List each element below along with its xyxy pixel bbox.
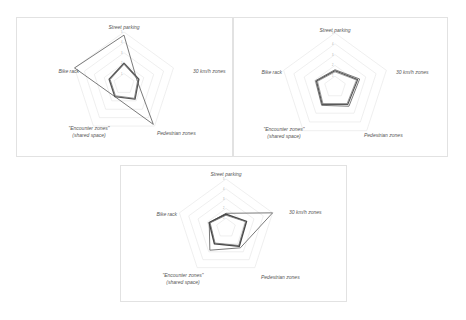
axis-label-encounter: "Encounter zones" [68,125,109,131]
tick-label: 2 [332,63,334,67]
axis-label-pedestrian: Pedestrian zones [157,130,196,136]
series-polygon [109,63,139,99]
axis-label-30kmh: 30 km/h zones [396,69,429,75]
axis-label-shared-space: (shared space) [72,132,106,138]
axis-label-30kmh: 30 km/h zones [289,209,322,215]
axis-label-street-parking: Street parking [108,24,139,30]
tick-label: 3 [121,51,123,55]
grid-ring [114,74,134,93]
axis-label-shared-space: (shared space) [267,133,301,139]
tick-label: 1 [121,72,123,76]
axis-label-street-parking: Street parking [210,171,241,177]
grid-ring [284,33,387,131]
tick-label: 4 [223,187,225,191]
axis-label-pedestrian: Pedestrian zones [261,274,300,280]
series-polygon [75,35,154,124]
tick-label: 2 [223,206,225,210]
radar-panel-3: 12345 Street parking 30 km/h zones Pedes… [120,165,347,302]
axis-label-bike-rack: Bike rack [58,68,79,74]
tick-label: 3 [332,53,334,57]
tick-label: 5 [121,30,123,34]
axis-label-shared-space: (shared space) [166,279,200,285]
radar-chart-2: 12345 Street parking 30 km/h zones Pedes… [234,18,449,158]
axis-label-bike-rack: Bike rack [261,69,282,75]
axis-label-encounter: "Encounter zones" [162,272,203,278]
tick-label: 4 [121,40,123,44]
grid-ring [217,218,236,236]
tick-label: 3 [223,197,225,201]
axis-label-30kmh: 30 km/h zones [193,68,226,74]
tick-label: 4 [332,42,334,46]
grid-ring [179,179,272,268]
axis-label-street-parking: Street parking [319,27,350,33]
tick-label: 5 [223,177,225,181]
tick-label: 1 [332,74,334,78]
axis-label-encounter: "Encounter zones" [263,126,304,132]
axis-label-bike-rack: Bike rack [156,211,177,217]
radar-panel-1: 12345 Street parking 30 km/h zones Pedes… [16,17,233,157]
grid-ring [325,76,346,96]
radar-panel-2: 12345 Street parking 30 km/h zones Pedes… [233,17,448,157]
radar-chart-3: 12345 Street parking 30 km/h zones Pedes… [121,166,348,303]
radar-chart-1: 12345 Street parking 30 km/h zones Pedes… [17,18,234,158]
axis-label-pedestrian: Pedestrian zones [364,132,403,138]
